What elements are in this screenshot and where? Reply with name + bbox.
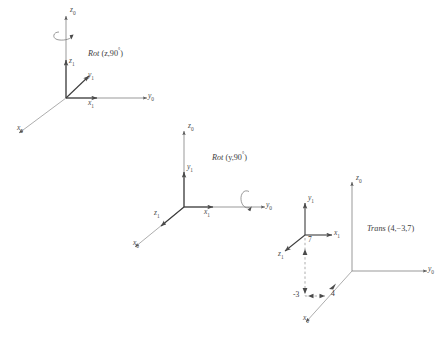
rotation-curl-z-icon <box>54 32 72 40</box>
frame-rot-y-y0-label: y0 <box>266 201 272 211</box>
frame-rot-y-y1-label: y1 <box>187 163 193 173</box>
frame-rot-z-x0-label: x0 <box>17 124 23 134</box>
x0-axis-line <box>19 98 66 133</box>
frame-trans-x0-label: x0 <box>303 314 309 324</box>
y1-axis-line <box>66 76 89 98</box>
frame-trans-z0-label: z0 <box>356 174 362 184</box>
frame-trans-x1-label: x1 <box>334 229 340 239</box>
rotation-curl-y-icon <box>241 191 250 208</box>
rotation-curl-z-arrowhead-icon <box>70 34 74 39</box>
diagram-canvas: z0 y0 x0 z1 y1 x1 Rot (z,90°) z0 y0 x0 y… <box>0 0 446 339</box>
frame-rot-y-group <box>135 131 265 247</box>
frame-trans-group <box>285 182 427 322</box>
frame-rot-y-operation-label: Rot (y,90°) <box>212 152 247 162</box>
frame-rot-y-x0-label: x0 <box>133 239 139 249</box>
diagram-vector-layer <box>0 0 446 339</box>
frame-trans-dim-x-label: 4 <box>331 290 335 298</box>
z1-axis-line <box>285 235 305 251</box>
frame-rot-z-x1-label: x1 <box>88 99 94 109</box>
dim-y-arrow-left-icon <box>308 294 314 298</box>
frame-rot-y-z0-label: z0 <box>188 122 194 132</box>
frame-rot-z-y1-label: y1 <box>88 71 94 81</box>
frame-trans-dim-z-label: 7 <box>308 236 312 244</box>
frame-rot-z-z0-label: z0 <box>70 6 76 16</box>
dim-y-arrow-right-icon <box>320 294 326 298</box>
frame-rot-z-z1-label: z1 <box>69 57 75 67</box>
dim-z-arrow-up-icon <box>303 249 308 255</box>
frame-trans-dim-y-label: -3 <box>293 291 299 299</box>
frame-rot-y-x1-label: x1 <box>204 208 210 218</box>
dim-z-arrow-down-icon <box>303 288 308 294</box>
frame-rot-z-group <box>19 16 147 133</box>
frame-rot-z-y0-label: y0 <box>148 92 154 102</box>
frame-rot-y-z1-label: z1 <box>154 209 160 219</box>
z1-axis-line <box>161 207 184 226</box>
frame-trans-y0-label: y0 <box>428 265 434 275</box>
frame-rot-z-operation-label: Rot (z,90°) <box>88 48 123 58</box>
frame-trans-y1-label: y1 <box>308 194 314 204</box>
frame-trans-operation-label: Trans (4,−3,7) <box>367 225 414 233</box>
frame-trans-z1-label: z1 <box>278 250 284 260</box>
